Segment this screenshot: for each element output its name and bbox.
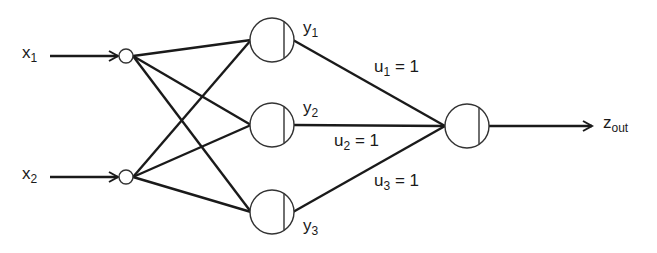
output-node [445,104,489,148]
label-y1-sub: 1 [312,26,319,40]
label-y1-base: y [303,18,312,37]
label-y3: y3 [303,217,318,237]
label-y3-base: y [303,216,312,235]
label-u3-value: = 1 [395,171,419,190]
label-u2: u2 = 1 [334,132,379,152]
label-u1-sub: 1 [383,65,390,79]
label-u3-sub: 3 [383,179,390,193]
label-x1-base: x [22,43,31,62]
label-u2-sub: 2 [343,139,350,153]
edge-x2-y3 [133,177,251,212]
hidden-node-y3 [250,190,294,234]
label-x1: x1 [22,44,37,64]
label-zout: zout [603,114,628,134]
label-x1-sub: 1 [31,51,38,65]
neural-network-diagram: x1 x2 y1 y2 y3 u1 = 1 u2 = 1 u3 = 1 zout [0,0,657,253]
label-u3: u3 = 1 [374,172,419,192]
edge-y2-z [293,125,445,126]
hidden-node-y1 [250,18,294,62]
label-y2-base: y [303,98,312,117]
edge-x1-y1 [133,40,251,56]
label-u1-value: = 1 [395,57,419,76]
label-y2-sub: 2 [312,106,319,120]
label-y2: y2 [303,99,318,119]
label-x2-sub: 2 [31,172,38,186]
input-node-x1 [119,49,133,63]
edge-x1-y2 [133,56,251,125]
label-u2-value: = 1 [355,131,379,150]
label-y3-sub: 3 [312,224,319,238]
network-graph [0,0,657,253]
label-y1: y1 [303,19,318,39]
hidden-node-y2 [250,103,294,147]
label-x2: x2 [22,165,37,185]
input-node-x2 [119,170,133,184]
edge-x2-y1 [133,40,251,177]
label-zout-sub: out [612,121,629,135]
label-u1: u1 = 1 [374,58,419,78]
label-zout-base: z [603,113,612,132]
label-x2-base: x [22,164,31,183]
